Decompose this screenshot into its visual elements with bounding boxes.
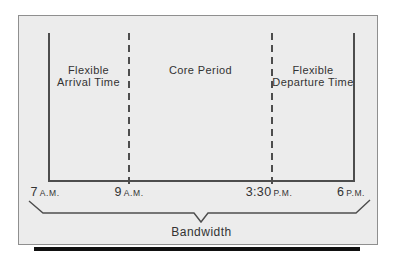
section-flexible-departure: Flexible Departure Time (272, 64, 354, 88)
section-core-period: Core Period (129, 64, 272, 76)
diagram-panel: Flexible Arrival Time Core Period Flexib… (18, 15, 378, 245)
tick-period: P.M. (346, 188, 365, 198)
core-start-dashed-line (128, 33, 130, 187)
tick-period: A.M. (40, 188, 60, 198)
section-label-line1: Flexible (272, 64, 354, 76)
tick-7am: 7A.M. (30, 185, 59, 199)
bandwidth-label: Bandwidth (129, 225, 274, 239)
section-label-line1: Core Period (129, 64, 272, 76)
section-label-line2: Departure Time (272, 76, 354, 88)
end-time-line (353, 33, 355, 181)
panel-shadow-bar (34, 247, 360, 251)
tick-time: 6 (337, 185, 344, 199)
tick-time: 3:30 (246, 185, 272, 199)
core-end-dashed-line (271, 33, 273, 187)
tick-period: A.M. (124, 188, 144, 198)
tick-period: P.M. (274, 188, 293, 198)
tick-time: 9 (114, 185, 121, 199)
section-label-line2: Arrival Time (48, 76, 129, 88)
tick-6pm: 6P.M. (337, 185, 365, 199)
timeline-baseline (48, 180, 355, 182)
section-flexible-arrival: Flexible Arrival Time (48, 64, 129, 88)
tick-9am: 9A.M. (114, 185, 143, 199)
tick-330pm: 3:30P.M. (246, 185, 293, 199)
section-label-line1: Flexible (48, 64, 129, 76)
start-time-line (48, 33, 50, 181)
tick-time: 7 (30, 185, 37, 199)
flextime-figure: Flexible Arrival Time Core Period Flexib… (0, 0, 395, 261)
bandwidth-brace (19, 16, 377, 244)
